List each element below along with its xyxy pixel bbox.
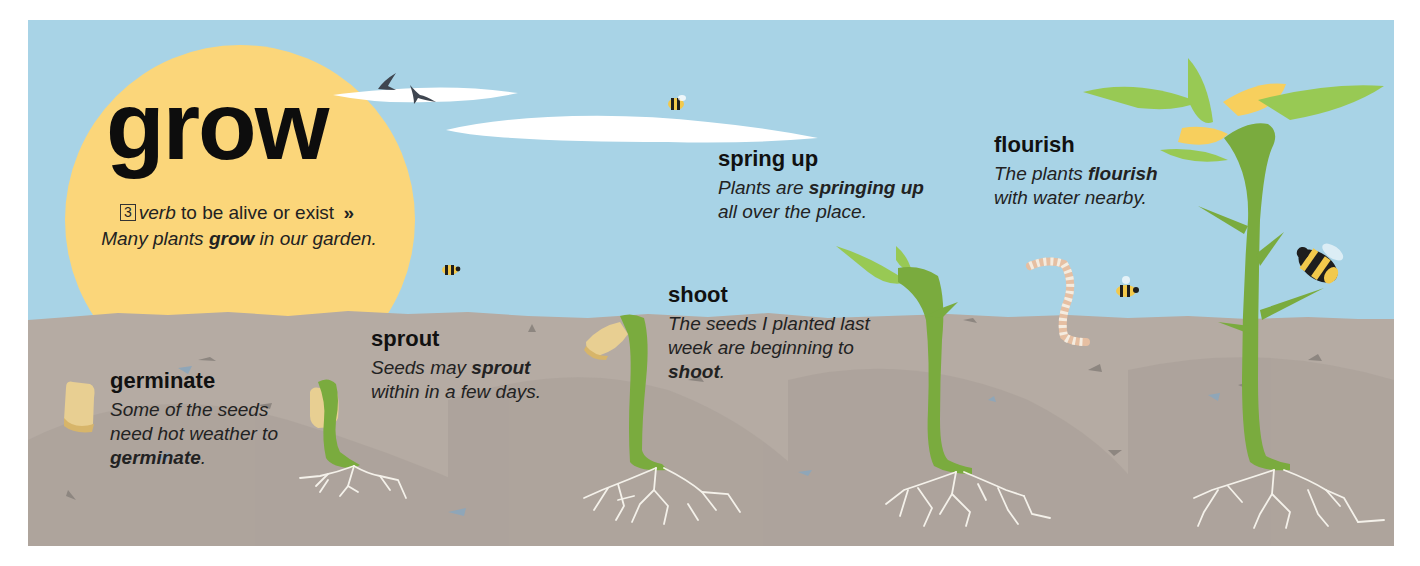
stage-example: Some of the seeds need hot weather to ge… (110, 398, 310, 470)
example-separator: » (343, 202, 354, 223)
illustration-panel: grow 3verb to be alive or exist » Many p… (28, 20, 1394, 546)
stage-example: Plants are springing up all over the pla… (718, 176, 938, 224)
stage-example: The plants flourish with water nearby. (994, 162, 1194, 210)
stage-spring-up: spring up Plants are springing up all ov… (718, 146, 938, 224)
stage-example: The seeds I planted last week are beginn… (668, 312, 878, 384)
definition-meaning: to be alive or exist (181, 202, 334, 223)
stage-term: shoot (668, 282, 878, 308)
stage-shoot: shoot The seeds I planted last week are … (668, 282, 878, 384)
stage-sprout: sprout Seeds may sprout within in a few … (371, 326, 581, 404)
definition: 3verb to be alive or exist » Many plants… (98, 200, 380, 252)
stage-flourish: flourish The plants flourish with water … (994, 132, 1194, 210)
headword: grow (106, 78, 327, 174)
stage-term: germinate (110, 368, 310, 394)
definition-example-pre: Many plants (101, 228, 203, 249)
stage-germinate: germinate Some of the seeds need hot wea… (110, 368, 310, 470)
seed-icon (64, 382, 95, 433)
definition-example-bold: grow (209, 228, 254, 249)
stage-term: spring up (718, 146, 938, 172)
stage-example: Seeds may sprout within in a few days. (371, 356, 581, 404)
sense-number: 3 (120, 204, 136, 221)
part-of-speech: verb (139, 202, 176, 223)
stage-term: flourish (994, 132, 1194, 158)
stage-term: sprout (371, 326, 581, 352)
definition-example-post: in our garden. (260, 228, 377, 249)
